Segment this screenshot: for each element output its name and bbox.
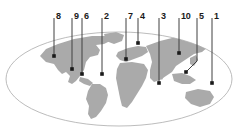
- callout-4-label[interactable]: 4: [140, 12, 145, 21]
- callout-8-marker[interactable]: [52, 54, 56, 58]
- callout-7-marker[interactable]: [124, 57, 128, 61]
- callout-2-label[interactable]: 2: [104, 12, 109, 21]
- callout-10-label[interactable]: 10: [181, 12, 191, 21]
- callout-1-label[interactable]: 1: [214, 12, 219, 21]
- land-new-zealand: [219, 104, 224, 111]
- callout-3-marker[interactable]: [157, 81, 161, 85]
- callout-9-marker[interactable]: [70, 67, 74, 71]
- callout-10-marker[interactable]: [177, 51, 181, 55]
- callout-5-label[interactable]: 5: [199, 12, 204, 21]
- callout-8-label[interactable]: 8: [56, 12, 61, 21]
- world-map-callout-figure: 89627431051: [0, 0, 238, 138]
- callout-7-label[interactable]: 7: [128, 12, 133, 21]
- callout-9-label[interactable]: 9: [74, 12, 79, 21]
- callout-4-marker[interactable]: [136, 41, 140, 45]
- callout-3-label[interactable]: 3: [161, 12, 166, 21]
- callout-6-marker[interactable]: [80, 72, 84, 76]
- callout-6-label[interactable]: 6: [84, 12, 89, 21]
- callout-5-marker[interactable]: [184, 70, 188, 74]
- callout-2-marker[interactable]: [100, 72, 104, 76]
- callout-1-marker[interactable]: [210, 81, 214, 85]
